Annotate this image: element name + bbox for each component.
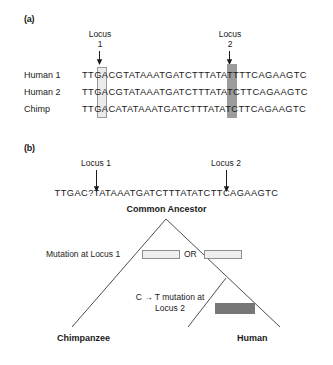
- panel-a-label: (a): [24, 14, 34, 24]
- figure-container: (a) Locus 1 Locus 2 Human 1 TTGACGTATAAA…: [0, 0, 333, 365]
- alignment-row-sequence: TTGACATATAAATGATCTTTATATCTTCAGAAGTC: [82, 102, 306, 117]
- ancestor-sequence: TTGAC?TATAAATGATCTTTATATCTTCAGAAGTC: [0, 188, 333, 198]
- common-ancestor-label: Common Ancestor: [0, 204, 333, 214]
- locus-2-header-b: Locus 2: [196, 158, 256, 168]
- locus-1-header-a: Locus 1: [73, 29, 127, 49]
- alignment-row-label: Human 2: [24, 85, 61, 100]
- locus-2-arrow-icon: [225, 51, 234, 65]
- mutation-locus1-label: Mutation at Locus 1: [46, 249, 120, 259]
- alignment-row-sequence: TTGACGTATAAATGATCTTTATATCTTCAGAAGTC: [82, 85, 308, 100]
- panel-b-label: (b): [24, 143, 35, 153]
- alignment-row-sequence: TTGACGTATAAATGATCTTTATATTTTCAGAAGTC: [82, 68, 307, 83]
- mutation-box-locus1-right: [204, 250, 242, 259]
- alignment-row-label: Human 1: [24, 68, 61, 83]
- taxon-label-human: Human: [237, 333, 268, 343]
- locus-1-header-b: Locus 1: [66, 158, 126, 168]
- or-label: OR: [184, 249, 197, 259]
- locus-2-header-a: Locus 2: [203, 29, 257, 49]
- mutation-locus2-label: C → T mutation at Locus 2: [128, 292, 212, 314]
- alignment-row-label: Chimp: [24, 102, 50, 117]
- locus-1-arrow-icon: [95, 51, 104, 65]
- phylogenetic-tree: [0, 215, 333, 340]
- taxon-label-chimpanzee: Chimpanzee: [57, 333, 110, 343]
- mutation-box-locus2: [215, 303, 255, 314]
- mutation-box-locus1-left: [142, 250, 180, 259]
